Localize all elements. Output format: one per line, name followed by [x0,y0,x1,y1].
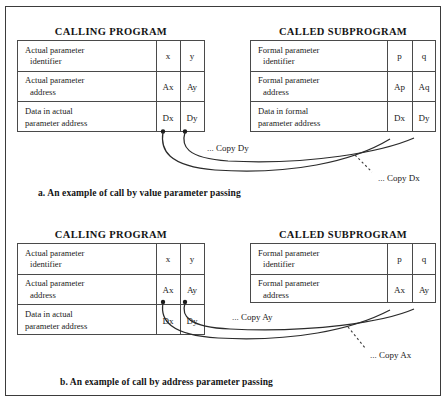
row-value-col2: y [180,244,204,274]
row-value-col2: Ay [180,275,204,304]
row-label-line-2: address [258,87,387,99]
diagram-b-called-subprogram-title: CALLED SUBPROGRAM [250,229,436,240]
table-row: Formal parameter identifier p q [251,41,435,71]
column-divider-1 [156,244,157,334]
figure-canvas: CALLING PROGRAM CALLED SUBPROGRAM Actual… [0,0,447,404]
annotation-text: Copy Dy [216,143,249,153]
row-label-line-1: Formal parameter [258,75,387,87]
row-value-col1: Ax [156,72,180,101]
row-label-line-1: Actual parameter [25,75,156,87]
table-row: Data in actual parameter address Dx Dy [18,304,204,336]
column-divider-1 [387,244,388,302]
annotation-text: Copy Ax [379,350,411,360]
row-label-line-1: Actual parameter [25,278,156,290]
row-label-line-1: Data in formal [258,106,387,118]
table-row: Actual parameter address Ax Ay [18,274,204,304]
diagram-b-caption: b. An example of call by address paramet… [60,377,273,387]
row-label: Data in actual parameter address [18,305,156,336]
row-label-line-2: identifier [25,56,156,68]
row-label-line-2: parameter address [258,118,387,130]
row-label: Actual parameter address [18,72,156,101]
column-divider-2 [412,244,413,302]
row-label: Formal parameter address [251,72,387,101]
leader-dots: ... [232,312,239,322]
row-value-col2: Ay [180,72,204,101]
row-label: Formal parameter address [251,275,387,304]
row-label: Data in actual parameter address [18,102,156,133]
row-value-col1: Ap [387,72,412,101]
row-label-line-1: Actual parameter [25,248,156,260]
row-value-col1: Dx [156,305,180,336]
row-label-line-2: identifier [258,56,387,68]
diagram-b-copy-ax-label: ... Copy Ax [370,350,411,360]
row-label: Actual parameter identifier [18,244,156,274]
diagram-a-calling-program-title: CALLING PROGRAM [17,26,205,37]
row-value-col1: Dx [156,102,180,133]
row-label: Formal parameter identifier [251,41,387,71]
column-divider-1 [387,41,388,131]
diagram-a-called-subprogram-table: Formal parameter identifier p q Formal p… [250,40,436,132]
leader-dots: ... [370,350,377,360]
row-label: Data in formal parameter address [251,102,387,133]
row-value-col2: Ay [412,275,436,304]
row-label-line-1: Actual parameter [25,45,156,57]
row-value-col2: Dy [180,102,204,133]
row-label-line-2: address [25,87,156,99]
diagram-a-caption: a. An example of call by value parameter… [38,188,241,198]
leader-dots: ... [207,143,214,153]
table-row: Formal parameter identifier p q [251,244,435,274]
row-value-col1: x [156,244,180,274]
row-label-line-1: Data in actual [25,106,156,118]
leader-dots: ... [378,173,385,183]
row-label-line-2: parameter address [25,118,156,130]
row-value-col1: p [387,41,412,71]
table-row: Actual parameter identifier x y [18,41,204,71]
row-label: Actual parameter identifier [18,41,156,71]
row-label-line-1: Formal parameter [258,278,387,290]
row-label-line-2: address [258,290,387,302]
diagram-a-calling-program-table: Actual parameter identifier x y Actual p… [17,40,205,132]
column-divider-2 [180,41,181,131]
diagram-a-copy-dx-label: ... Copy Dx [378,173,420,183]
table-row: Data in actual parameter address Dx Dy [18,101,204,133]
column-divider-2 [180,244,181,334]
annotation-text: Copy Ay [241,312,272,322]
annotation-text: Copy Dx [387,173,420,183]
row-label-line-1: Formal parameter [258,45,387,57]
table-row: Actual parameter identifier x y [18,244,204,274]
table-row: Actual parameter address Ax Ay [18,71,204,101]
row-label-line-2: address [25,290,156,302]
row-label-line-2: parameter address [25,321,156,333]
row-value-col1: x [156,41,180,71]
column-divider-2 [412,41,413,131]
row-value-col2: q [412,244,436,274]
row-value-col1: Ax [156,275,180,304]
table-row: Data in formal parameter address Dx Dy [251,101,435,133]
table-row: Formal parameter address Ax Ay [251,274,435,304]
row-label: Formal parameter identifier [251,244,387,274]
row-value-col1: Dx [387,102,412,133]
row-label-line-1: Data in actual [25,309,156,321]
row-value-col2: q [412,41,436,71]
table-row: Formal parameter address Ap Aq [251,71,435,101]
row-label: Actual parameter address [18,275,156,304]
row-value-col2: Dy [412,102,436,133]
diagram-b-copy-ay-label: ... Copy Ay [232,312,272,322]
column-divider-1 [156,41,157,131]
row-label-line-2: identifier [25,259,156,271]
diagram-b-calling-program-title: CALLING PROGRAM [17,229,205,240]
row-value-col2: Dy [180,305,204,336]
row-value-col2: y [180,41,204,71]
diagram-a-copy-dy-label: ... Copy Dy [207,143,249,153]
diagram-b-calling-program-table: Actual parameter identifier x y Actual p… [17,243,205,335]
diagram-b-called-subprogram-table: Formal parameter identifier p q Formal p… [250,243,436,303]
diagram-a-called-subprogram-title: CALLED SUBPROGRAM [250,26,436,37]
row-value-col1: p [387,244,412,274]
row-value-col1: Ax [387,275,412,304]
row-label-line-1: Formal parameter [258,248,387,260]
row-label-line-2: identifier [258,259,387,271]
row-value-col2: Aq [412,72,436,101]
